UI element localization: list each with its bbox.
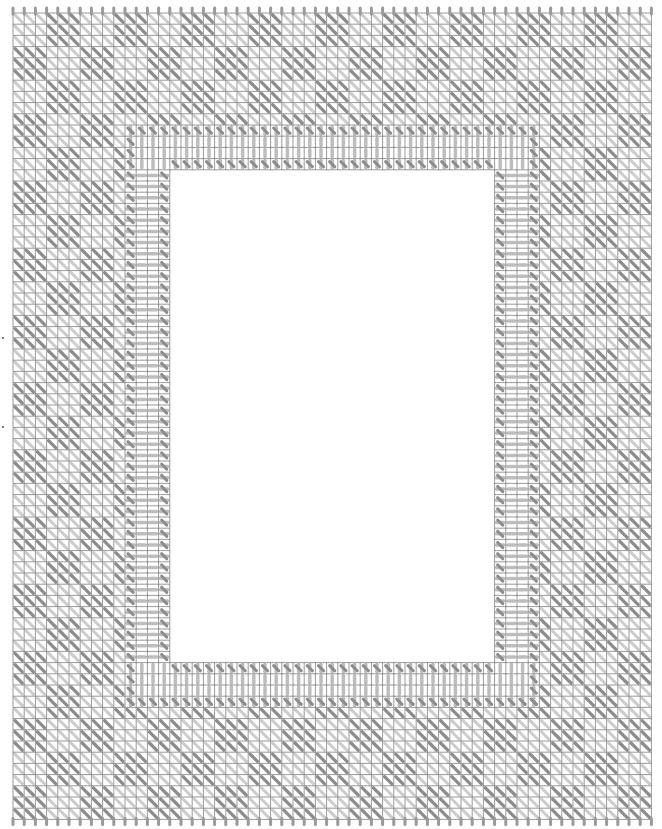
center-opening: [170, 170, 495, 663]
center-marker: [2, 426, 4, 428]
stitch-chart: [0, 0, 662, 829]
center-marker: [2, 337, 4, 339]
